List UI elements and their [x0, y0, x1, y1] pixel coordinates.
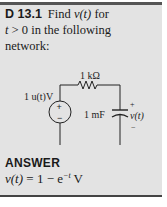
problem-label: D 13.1: [5, 7, 42, 21]
source-minus: −: [57, 113, 62, 123]
source-label: 1 u(t)V: [24, 91, 54, 103]
capacitor-label: 1 mF: [84, 109, 105, 120]
output-plus: +: [130, 100, 135, 109]
resistor-zigzag: [78, 81, 97, 89]
answer-equation: v(t) = 1 − e−t V: [5, 171, 83, 187]
problem-statement: D 13.1Find v(t) for t > 0 in the followi…: [5, 6, 160, 54]
output-label: v(t): [130, 110, 145, 122]
output-minus: −: [131, 123, 136, 132]
source-plus: +: [57, 102, 62, 112]
resistor-label: 1 kΩ: [80, 70, 100, 81]
wire-top-left: [60, 85, 78, 101]
circuit-diagram: 1 kΩ 1 u(t)V + − 1 mF + v(t) −: [0, 55, 162, 150]
wire-top-right: [97, 85, 120, 110]
answer-heading: ANSWER: [5, 156, 60, 170]
